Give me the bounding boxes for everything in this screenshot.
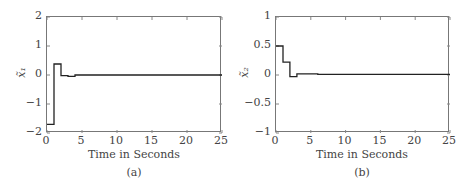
x-axis-label-a: Time in Seconds — [34, 148, 234, 161]
y-tick-label: 1 — [12, 38, 42, 51]
caption-b: (b) — [342, 166, 382, 179]
x-tick-label: 20 — [174, 134, 198, 147]
y-tick-label: 1 — [241, 9, 271, 22]
x-tick-label: 10 — [104, 134, 128, 147]
y-tick-label: −0.5 — [241, 96, 271, 109]
x-tick-label: 25 — [209, 134, 233, 147]
chart-panel-a: 210−1−2 0510152025 x̃₁ Time in Seconds (… — [0, 0, 235, 190]
caption-a: (a) — [114, 166, 154, 179]
line-series-b — [276, 17, 450, 133]
series-line — [47, 64, 222, 124]
y-axis-label-a: x̃₁ — [15, 58, 28, 88]
x-tick-label: 5 — [69, 134, 93, 147]
x-tick-label: 20 — [402, 134, 426, 147]
x-tick-label: 0 — [263, 134, 287, 147]
y-tick-label: 0.5 — [241, 38, 271, 51]
chart-panel-b: 10.50−0.5−1 0510152025 x̃₂ Time in Secon… — [235, 0, 470, 190]
y-tick-label: 2 — [12, 9, 42, 22]
x-tick-label: 5 — [298, 134, 322, 147]
y-tick-label: −1 — [12, 96, 42, 109]
y-axis-label-b: x̃₂ — [238, 58, 251, 88]
series-line — [276, 46, 450, 77]
x-tick-label: 25 — [437, 134, 461, 147]
plot-area-b — [275, 16, 449, 132]
x-tick-label: 15 — [139, 134, 163, 147]
line-series-a — [47, 17, 222, 133]
plot-area-a — [46, 16, 221, 132]
x-axis-label-b: Time in Seconds — [262, 148, 462, 161]
x-tick-label: 0 — [34, 134, 58, 147]
x-tick-label: 10 — [333, 134, 357, 147]
x-tick-label: 15 — [367, 134, 391, 147]
